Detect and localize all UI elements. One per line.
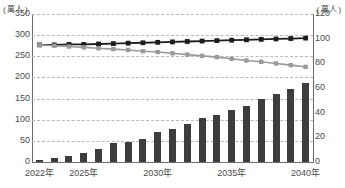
left-axis-tick-0: 0 [4, 157, 30, 166]
right-axis-tick-100: 100 [315, 34, 341, 43]
chart-container: ( 萬人 ) ( 萬人 ) 350300250200150100500 1201… [0, 0, 345, 188]
line-gray-series-marker [215, 55, 219, 59]
line-gray-series-marker [274, 61, 278, 65]
right-axis-tick-0: 0 [315, 157, 341, 166]
line-gray-series-marker [200, 54, 204, 58]
left-axis-tick-300: 300 [4, 30, 30, 39]
line-gray-series-marker [82, 45, 86, 49]
line-gray-series-marker [52, 44, 56, 48]
line-gray-series-marker [229, 57, 233, 61]
line-dark-series [37, 36, 308, 48]
line-dark-series-marker [303, 36, 308, 41]
right-axis-tick-20: 20 [315, 132, 341, 141]
line-gray-series-marker [244, 58, 248, 62]
right-axis-line [313, 14, 314, 162]
line-gray-series-marker [67, 44, 71, 48]
line-gray-series-marker [259, 60, 263, 64]
line-dark-series-marker [288, 36, 293, 41]
left-axis-tick-200: 200 [4, 72, 30, 81]
left-axis-tick-50: 50 [4, 136, 30, 145]
plot-area [32, 14, 313, 162]
line-dark-series-marker [214, 38, 219, 43]
line-gray-series-marker [96, 46, 100, 50]
left-axis-tick-150: 150 [4, 94, 30, 103]
line-dark-series-marker [126, 41, 131, 46]
line-gray-series-marker [170, 51, 174, 55]
line-series-group [32, 14, 313, 162]
line-gray-series-marker [141, 49, 145, 53]
x-axis-tick-2022: 2022年 [25, 168, 54, 178]
left-axis-tick-350: 350 [4, 9, 30, 18]
left-axis: 350300250200150100500 [0, 0, 30, 188]
left-axis-tick-100: 100 [4, 115, 30, 124]
line-gray-series-marker [37, 43, 41, 47]
line-gray-series-path [39, 45, 305, 67]
line-dark-series-marker [111, 41, 116, 46]
right-axis-tick-80: 80 [315, 58, 341, 67]
line-gray-series [37, 43, 308, 69]
x-axis-tick-2040: 2040年 [291, 168, 320, 178]
line-dark-series-marker [229, 38, 234, 43]
line-dark-series-marker [155, 40, 160, 45]
line-gray-series-marker [156, 50, 160, 54]
line-dark-series-marker [274, 37, 279, 42]
x-axis-tick-2035: 2035年 [217, 168, 246, 178]
line-gray-series-marker [289, 63, 293, 67]
line-dark-series-marker [244, 37, 249, 42]
line-dark-series-marker [170, 40, 175, 45]
x-axis-tick-2030: 2030年 [143, 168, 172, 178]
right-axis-tick-120: 120 [315, 9, 341, 18]
line-dark-series-marker [259, 37, 264, 42]
line-gray-series-marker [303, 65, 307, 69]
line-dark-series-marker [96, 42, 101, 47]
left-axis-tick-250: 250 [4, 51, 30, 60]
line-gray-series-marker [185, 52, 189, 56]
right-axis: 120100806040200 [315, 0, 345, 188]
line-dark-series-marker [185, 39, 190, 44]
line-dark-series-marker [141, 40, 146, 45]
line-gray-series-marker [126, 48, 130, 52]
line-dark-series-marker [200, 39, 205, 44]
x-axis-tick-2025: 2025年 [69, 168, 98, 178]
x-axis-line [32, 162, 314, 163]
right-axis-tick-60: 60 [315, 83, 341, 92]
right-axis-tick-40: 40 [315, 108, 341, 117]
line-gray-series-marker [111, 47, 115, 51]
